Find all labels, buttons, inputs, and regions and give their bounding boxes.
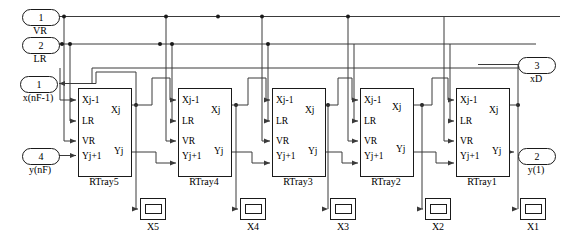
- rtray1-input-yj1: Yj+1: [460, 152, 480, 162]
- scope-label-x4: X4: [235, 221, 271, 232]
- output-port-xd-number: 3: [535, 61, 540, 71]
- rtray2-input-vr: VR: [364, 137, 377, 147]
- rtray2-output-yj: Yj: [396, 145, 406, 155]
- output-port-xd-label: xD: [518, 73, 554, 84]
- input-port-lr[interactable]: 2: [22, 37, 60, 54]
- scope-screen-icon: [335, 204, 352, 214]
- input-port-ynf-label: y(nF): [14, 164, 66, 175]
- rtray4-output-xj: Xj: [211, 106, 221, 116]
- rtray1-output-yj: Yj: [492, 147, 502, 157]
- input-port-ynf[interactable]: 4: [22, 148, 60, 165]
- rtray1-output-xj: Xj: [489, 106, 499, 116]
- output-port-y1[interactable]: 2: [518, 148, 556, 165]
- rtray4-block-label: RTray4: [174, 176, 234, 187]
- scope-label-x5: X5: [135, 221, 171, 232]
- output-port-xd[interactable]: 3: [518, 57, 556, 74]
- rtray3-input-vr: VR: [276, 137, 289, 147]
- rtray1-input-xj-1: Xj-1: [460, 96, 477, 106]
- input-port-lr-label: LR: [22, 53, 58, 64]
- rtray2-output-xj: Xj: [392, 103, 402, 113]
- rtray5-input-vr: VR: [82, 137, 95, 147]
- output-port-y1-number: 2: [535, 152, 540, 162]
- rtray4-input-yj1: Yj+1: [182, 152, 202, 162]
- rtray4-input-vr: VR: [182, 137, 195, 147]
- rtray5-block-label: RTray5: [74, 176, 134, 187]
- scope-screen-icon: [430, 204, 447, 214]
- scope-screen-icon: [525, 204, 542, 214]
- output-port-xnf1[interactable]: 1: [20, 76, 58, 93]
- rtray1-input-vr: VR: [460, 137, 473, 147]
- input-port-vr-number: 1: [39, 13, 44, 23]
- rtray3-input-yj1: Yj+1: [276, 152, 296, 162]
- rtray4-input-xj-1: Xj-1: [182, 96, 199, 106]
- scope-block-x2[interactable]: [425, 198, 451, 220]
- rtray2-input-lr: LR: [364, 117, 376, 127]
- rtray2-input-xj-1: Xj-1: [364, 96, 381, 106]
- scope-block-x5[interactable]: [140, 198, 166, 220]
- scope-block-x1[interactable]: [520, 198, 546, 220]
- input-port-ynf-number: 4: [39, 152, 44, 162]
- input-port-vr[interactable]: 1: [22, 9, 60, 26]
- simulink-diagram-canvas: 1 VR 2 LR 4 y(nF) 1 x(nF-1) 3 xD 2 y(1) …: [0, 0, 573, 244]
- scope-screen-icon: [245, 204, 262, 214]
- rtray4-output-yj: Yj: [214, 147, 224, 157]
- rtray1-block-label: RTray1: [452, 176, 512, 187]
- rtray1-input-lr: LR: [460, 117, 472, 127]
- output-port-xnf1-number: 1: [37, 80, 42, 90]
- scope-label-x1: X1: [515, 221, 551, 232]
- rtray5-input-lr: LR: [82, 117, 94, 127]
- rtray3-output-yj: Yj: [308, 147, 318, 157]
- output-port-y1-label: y(1): [512, 164, 560, 175]
- scope-label-x2: X2: [420, 221, 456, 232]
- scope-label-x3: X3: [325, 221, 361, 232]
- rtray4-input-lr: LR: [182, 117, 194, 127]
- scope-screen-icon: [145, 204, 162, 214]
- rtray5-input-xj-1: Xj-1: [82, 96, 99, 106]
- scope-block-x3[interactable]: [330, 198, 356, 220]
- rtray3-input-xj-1: Xj-1: [276, 96, 293, 106]
- rtray5-output-xj: Xj: [111, 106, 121, 116]
- rtray3-block-label: RTray3: [268, 176, 328, 187]
- rtray5-output-yj: Yj: [114, 147, 124, 157]
- rtray2-input-yj1: Yj+1: [364, 152, 384, 162]
- output-port-xnf1-label: x(nF-1): [2, 92, 74, 103]
- scope-block-x4[interactable]: [240, 198, 266, 220]
- rtray2-block-label: RTray2: [356, 176, 416, 187]
- rtray3-output-xj: Xj: [305, 106, 315, 116]
- rtray5-input-yj1: Yj+1: [82, 152, 102, 162]
- input-port-lr-number: 2: [39, 41, 44, 51]
- input-port-vr-label: VR: [22, 25, 58, 36]
- rtray3-input-lr: LR: [276, 117, 288, 127]
